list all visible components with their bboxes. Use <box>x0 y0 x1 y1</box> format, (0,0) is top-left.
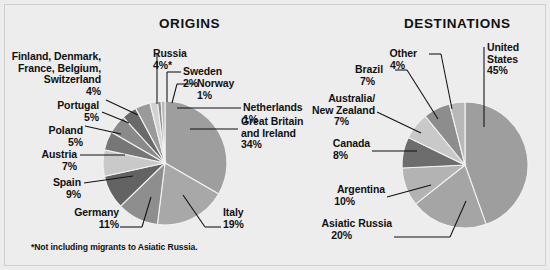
chart-footnote: *Not including migrants to Asiatic Russi… <box>31 242 197 252</box>
panel-destinations: DESTINATIONS <box>289 5 546 266</box>
chart-plate: ORIGINS <box>4 4 546 266</box>
panel-origins: ORIGINS <box>5 5 289 266</box>
label-sweden: Sweden 2% <box>183 66 222 89</box>
label-russia: Russia 4%* <box>153 48 187 71</box>
destinations-slice-group <box>402 102 528 228</box>
infographic-figure: ORIGINS <box>0 0 550 270</box>
label-italy: Italy 19% <box>223 207 244 230</box>
label-united-states: United States 45% <box>487 42 519 77</box>
